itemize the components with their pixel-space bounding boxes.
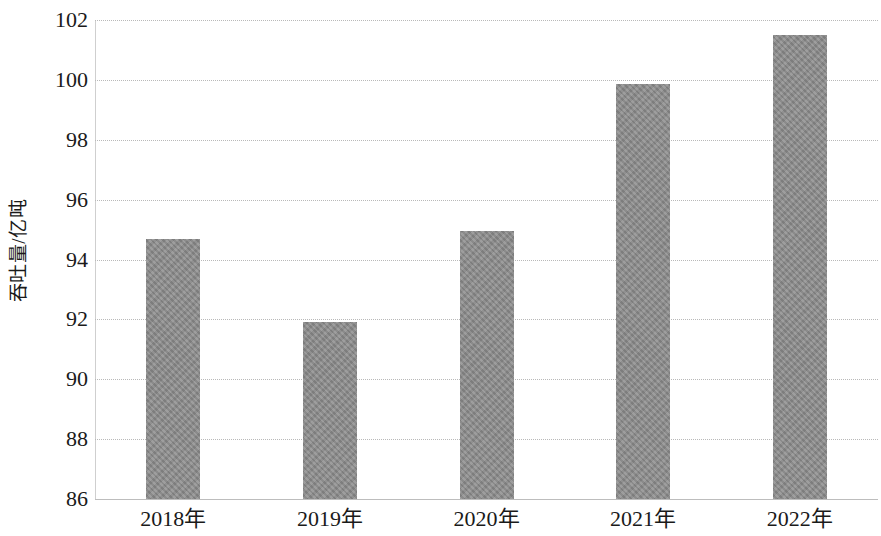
bar — [773, 35, 827, 499]
x-axis-tick-labels: 2018年2019年2020年2021年2022年 — [95, 505, 878, 536]
y-axis-tick-label: 100 — [55, 69, 88, 91]
y-axis-tick-label: 88 — [66, 428, 88, 450]
gridline — [95, 499, 878, 500]
bar — [460, 231, 514, 499]
x-axis-tick-label: 2022年 — [767, 505, 833, 533]
gridline — [95, 140, 878, 141]
y-axis-title: 吞吐量/亿吨 — [0, 0, 34, 500]
y-axis-title-text: 吞吐量/亿吨 — [4, 198, 31, 301]
x-axis-tick-label: 2021年 — [610, 505, 676, 533]
y-axis-tick-label: 98 — [66, 129, 88, 151]
y-axis-tick-label: 94 — [66, 249, 88, 271]
x-axis-tick-label: 2019年 — [297, 505, 363, 533]
y-axis-tick-label: 102 — [55, 9, 88, 31]
y-axis-tick-labels: 86889092949698100102 — [30, 0, 88, 536]
bar — [146, 239, 200, 499]
y-axis-tick-label: 86 — [66, 488, 88, 510]
plot-area — [95, 20, 878, 499]
y-axis-tick-label: 90 — [66, 368, 88, 390]
bar-chart: 吞吐量/亿吨 86889092949698100102 2018年2019年20… — [0, 0, 881, 536]
bar — [303, 322, 357, 499]
gridline — [95, 200, 878, 201]
gridline — [95, 20, 878, 21]
x-axis-tick-label: 2020年 — [454, 505, 520, 533]
y-axis-tick-label: 92 — [66, 308, 88, 330]
bar — [616, 84, 670, 499]
x-axis-tick-label: 2018年 — [140, 505, 206, 533]
gridline — [95, 80, 878, 81]
y-axis-tick-label: 96 — [66, 189, 88, 211]
